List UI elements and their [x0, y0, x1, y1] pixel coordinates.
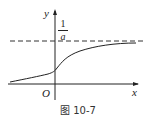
curve [10, 43, 136, 82]
asymptote-denominator: a [58, 32, 68, 42]
chart-canvas [0, 0, 151, 121]
origin-label: O [42, 88, 50, 99]
y-axis-arrow-icon [53, 9, 57, 15]
x-axis-label: x [132, 87, 137, 98]
y-axis-label: y [44, 8, 49, 19]
asymptote-label: 1 a [58, 19, 68, 42]
figure-caption: 图 10-7 [60, 106, 96, 116]
asymptote-numerator: 1 [58, 19, 68, 29]
